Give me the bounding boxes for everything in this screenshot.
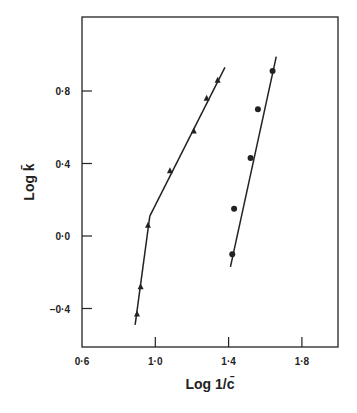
plot-frame [82, 17, 338, 347]
x-tick-label: 1·0 [148, 356, 163, 367]
triangle-marker [204, 95, 210, 101]
circle-marker [255, 106, 261, 112]
fit-line-circles [230, 57, 276, 267]
x-axis-label: Log 1/c̄ [185, 375, 235, 392]
fit-line-triangles [135, 216, 150, 325]
data-markers [134, 68, 276, 316]
y-tick-label: −0·4 [50, 304, 71, 315]
triangle-marker [191, 127, 197, 133]
triangle-marker [145, 222, 151, 228]
circle-marker [270, 68, 276, 74]
y-tick-label: 0·4 [56, 159, 71, 170]
y-axis-label: Log k̄ [20, 163, 37, 201]
triangle-marker [167, 167, 173, 173]
y-tick-label: 0·0 [56, 231, 71, 242]
x-tick-label: 1·8 [295, 356, 310, 367]
fit-line-triangles [150, 67, 225, 216]
y-tick-label: 0·8 [56, 86, 71, 97]
x-tick-label: 0·6 [75, 356, 90, 367]
y-axis-ticks: −0·40·00·40·8 [50, 86, 92, 315]
x-axis-ticks: 0·61·01·41·8 [75, 337, 310, 367]
circle-marker [231, 206, 237, 212]
x-tick-label: 1·4 [221, 356, 236, 367]
triangle-marker [134, 310, 140, 316]
circle-marker [229, 251, 235, 257]
triangle-marker [138, 283, 144, 289]
chart: −0·40·00·40·8 0·61·01·41·8 Log 1/c̄ Log … [0, 0, 357, 413]
circle-marker [248, 155, 254, 161]
